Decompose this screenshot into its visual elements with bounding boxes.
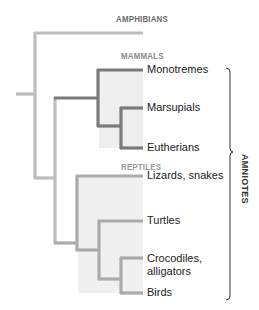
taxon-label-birds: Birds — [147, 286, 172, 299]
taxon-label-lizards-snakes: Lizards, snakes — [147, 169, 223, 182]
reptiles-clade-shading — [78, 177, 143, 293]
group-label-mammals: MAMMALS — [121, 51, 164, 61]
taxon-label-turtles: Turtles — [147, 214, 180, 227]
amniotes-label: AMNIOTES — [240, 154, 250, 204]
group-label-amphibians: AMPHIBIANS — [116, 14, 168, 24]
taxon-label-crocodiles-line2: alligators — [147, 265, 191, 278]
phylogenetic-tree-diagram: AMPHIBIANS MAMMALS REPTILES Monotremes M… — [0, 0, 259, 310]
taxon-label-marsupials: Marsupials — [147, 101, 200, 114]
amniotes-bracket — [226, 68, 233, 300]
taxon-label-eutherians: Eutherians — [147, 141, 200, 154]
taxon-label-monotremes: Monotremes — [147, 63, 208, 76]
taxon-label-crocodiles-line1: Crocodiles, — [147, 252, 202, 265]
tree-branches — [0, 0, 259, 310]
